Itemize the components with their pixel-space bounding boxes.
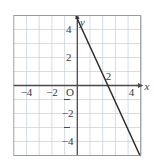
y-tick-label-4: 4: [66, 23, 72, 35]
x-axis-label: x: [144, 80, 150, 92]
mask-bottom: [0, 156, 155, 163]
graph-figure: y x −4 −2 2 4 O 4 2 −2 −4: [0, 0, 155, 163]
x-tick-label-minus4: −4: [21, 86, 33, 98]
x-tick-label-4: 4: [129, 86, 135, 98]
origin-label: O: [66, 86, 74, 98]
y-axis-label: y: [79, 16, 85, 28]
x-tick-label-2: 2: [106, 70, 112, 82]
coordinate-plane-svg: y x −4 −2 2 4 O 4 2 −2 −4: [0, 0, 155, 163]
y-tick-label-2: 2: [66, 51, 72, 63]
mask-top: [0, 0, 155, 15]
x-tick-label-minus2: −2: [46, 86, 58, 98]
y-tick-label-minus2: −2: [62, 107, 74, 119]
y-tick-label-minus4: −4: [62, 135, 74, 147]
